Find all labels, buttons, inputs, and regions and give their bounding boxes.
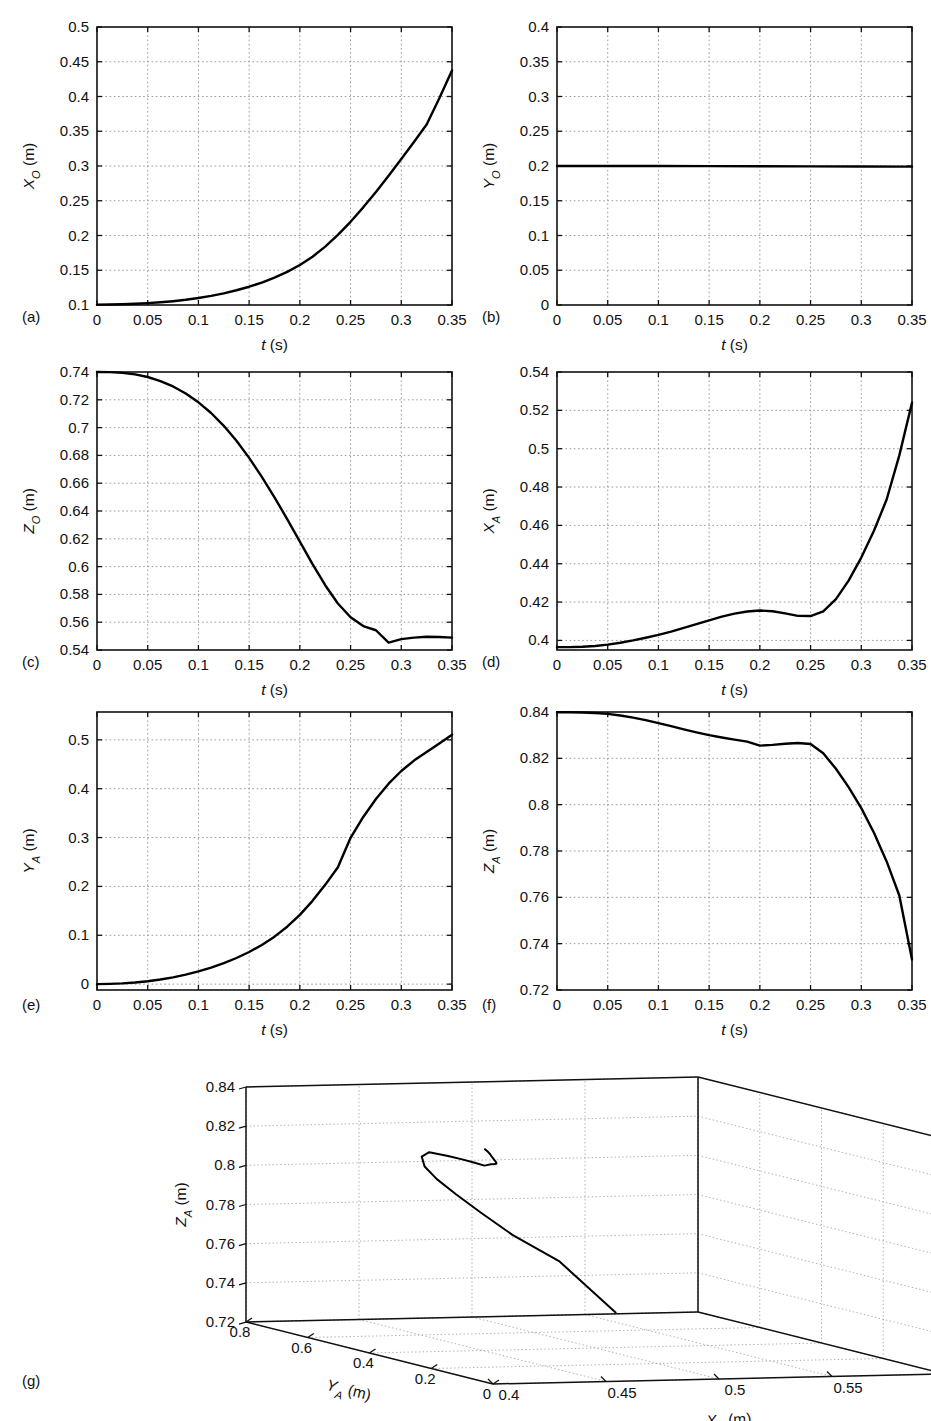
x-tick-label: 0.1 — [188, 656, 209, 673]
y-tick-label: 0.7 — [68, 419, 89, 436]
y-tick-label: 0.8 — [230, 1323, 251, 1340]
axis-ticks: 00.050.10.150.20.250.30.350.720.740.760.… — [520, 703, 927, 1013]
z-tick-label: 0.74 — [206, 1274, 235, 1291]
panel-caption-c: (c) — [22, 653, 40, 670]
y-tick-label: 0.2 — [68, 877, 89, 894]
panel-g-3d-trajectory: 0.720.740.760.780.80.820.84ZA (m)00.20.4… — [0, 990, 931, 1421]
x-tick-label: 0.1 — [188, 311, 209, 328]
y-tick-label: 0.72 — [60, 391, 89, 408]
x-tick-label: 0 — [93, 311, 101, 328]
x-tick-label: 0.15 — [235, 311, 264, 328]
x-tick-label: 0 — [93, 656, 101, 673]
x-tick-label: 0.1 — [648, 311, 669, 328]
x-tick-label: 0.45 — [607, 1384, 636, 1401]
y-tick-label: 0.15 — [60, 261, 89, 278]
x-tick-label: 0.2 — [289, 311, 310, 328]
y-tick-label: 0.25 — [520, 122, 549, 139]
y-tick-label: 0 — [483, 1385, 491, 1402]
y-tick-label: 0.3 — [68, 829, 89, 846]
y-tick-label: 0.42 — [520, 593, 549, 610]
z-tick-label: 0.82 — [206, 1117, 235, 1134]
x-tick-label: 0.25 — [336, 656, 365, 673]
x-tick-label: 0.25 — [796, 311, 825, 328]
x-tick-label: 0.3 — [851, 656, 872, 673]
grid-lines — [97, 372, 452, 650]
x-tick-label: 0.05 — [133, 656, 162, 673]
x-tick-label: 0.15 — [235, 656, 264, 673]
x-tick-label: 0.15 — [695, 311, 724, 328]
y-tick-label: 0.46 — [520, 516, 549, 533]
z-tick-label: 0.84 — [206, 1078, 235, 1095]
z-tick-label: 0.8 — [214, 1156, 235, 1173]
x-tick-label: 0.55 — [833, 1379, 862, 1396]
x-tick-label: 0.3 — [851, 311, 872, 328]
x-tick-label: 0.35 — [897, 656, 926, 673]
x-tick-label: 0.15 — [695, 656, 724, 673]
y-tick-label: 0.5 — [528, 440, 549, 457]
trajectory-3d — [422, 1149, 616, 1312]
y-tick-label: 0.54 — [520, 363, 549, 380]
y-tick-label: 0.4 — [68, 780, 89, 797]
y-tick-label: 0.25 — [60, 192, 89, 209]
panel-b-chart: 00.050.10.150.20.250.30.3500.050.10.150.… — [460, 0, 931, 345]
y-tick-label: 0.6 — [291, 1339, 312, 1356]
svg-text:ZO (m): ZO (m) — [20, 488, 42, 535]
x-axis-3d: 0.40.450.50.550.6 — [488, 1369, 931, 1403]
panel-caption-a: (a) — [22, 308, 40, 325]
y-tick-label: 0.2 — [528, 157, 549, 174]
svg-text:YA (m): YA (m) — [20, 828, 42, 873]
y-axis-title: YO (m) — [480, 143, 502, 189]
data-curve — [97, 372, 452, 643]
y-tick-label: 0.78 — [520, 842, 549, 859]
y-tick-label: 0.54 — [60, 641, 89, 658]
x-axis-title: XA (m) — [705, 1410, 752, 1421]
data-curve — [557, 403, 912, 647]
svg-text:YO (m): YO (m) — [480, 143, 502, 189]
x-tick-label: 0 — [553, 311, 561, 328]
panel-caption-f: (f) — [482, 996, 496, 1013]
y-axis-title: YA (m) — [324, 1376, 373, 1408]
figure-root: 00.050.10.150.20.250.30.350.10.150.20.25… — [0, 0, 931, 1421]
y-tick-label: 0.74 — [60, 363, 89, 380]
svg-text:ZA (m): ZA (m) — [172, 1182, 194, 1227]
y-tick-label: 0.48 — [520, 478, 549, 495]
y-tick-label: 0.2 — [68, 227, 89, 244]
axis-ticks: 00.050.10.150.20.250.30.350.40.420.440.4… — [520, 363, 927, 673]
y-tick-label: 0.3 — [68, 157, 89, 174]
panel-caption-d: (d) — [482, 653, 500, 670]
panel-caption-g: (g) — [22, 1372, 40, 1389]
grid-lines — [557, 712, 912, 990]
y-tick-label: 0.66 — [60, 474, 89, 491]
y-tick-label: 0.15 — [520, 192, 549, 209]
y-tick-label: 0.44 — [520, 555, 549, 572]
panel-e-chart: 00.050.10.150.20.250.30.3500.10.20.30.40… — [0, 685, 471, 1030]
y-tick-label: 0.5 — [68, 18, 89, 35]
y-tick-label: 0.3 — [528, 88, 549, 105]
y-tick-label: 0.58 — [60, 585, 89, 602]
svg-text:ZA (m): ZA (m) — [480, 829, 502, 874]
svg-text:YA (m): YA (m) — [324, 1376, 373, 1408]
y-tick-label: 0.56 — [60, 613, 89, 630]
box-edges-3d — [246, 1077, 931, 1384]
x-tick-label: 0.4 — [499, 1386, 520, 1403]
y-axis-title: XO (m) — [20, 143, 42, 190]
y-tick-label: 0.05 — [520, 261, 549, 278]
y-tick-label: 0.6 — [68, 558, 89, 575]
svg-text:XA (m): XA (m) — [480, 488, 502, 534]
y-tick-label: 0 — [541, 296, 549, 313]
y-axis-title: XA (m) — [480, 488, 502, 534]
y-tick-label: 0.45 — [60, 53, 89, 70]
grid-lines — [97, 712, 452, 990]
x-tick-label: 0.5 — [725, 1381, 746, 1398]
x-tick-label: 0.2 — [289, 656, 310, 673]
axis-ticks: 00.050.10.150.20.250.30.3500.050.10.150.… — [520, 18, 927, 328]
y-tick-label: 0.8 — [528, 796, 549, 813]
z-tick-label: 0.76 — [206, 1235, 235, 1252]
x-tick-label: 0.2 — [749, 656, 770, 673]
panel-a-chart: 00.050.10.150.20.250.30.350.10.150.20.25… — [0, 0, 471, 345]
y-tick-label: 0.52 — [520, 401, 549, 418]
x-tick-label: 0.25 — [796, 656, 825, 673]
z-tick-label: 0.78 — [206, 1196, 235, 1213]
y-tick-label: 0.1 — [528, 227, 549, 244]
x-tick-label: 0.3 — [391, 311, 412, 328]
